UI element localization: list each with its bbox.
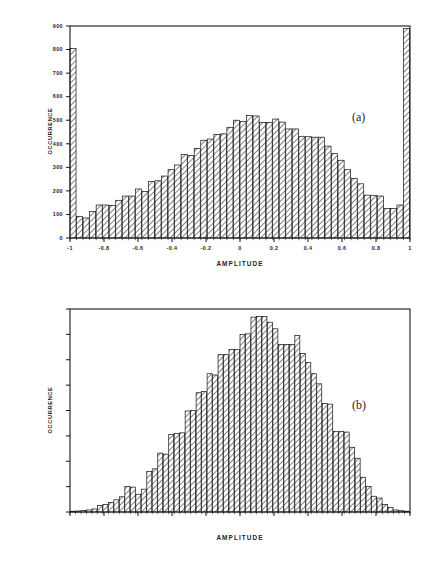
y-tick-label: 200 [30,188,63,194]
y-tick-label: 900 [30,23,63,29]
figure-panel-b: OCCURRENCE 0100200300400500600700800 -3-… [0,285,433,563]
y-tick-label: 0 [30,235,63,241]
y-tick-label: 400 [30,141,63,147]
y-tick-label: 300 [30,164,63,170]
y-tick-label: 700 [30,70,63,76]
figure-panel-a: OCCURRENCE 0100200300400500600700800900 … [0,0,433,285]
x-axis-title-b: AMPLITUDE [180,534,300,541]
y-axis-title-b: OCCURRENCE [47,368,53,452]
x-tick-label: -0.6 [123,245,153,251]
histogram-bars-a [70,28,410,238]
panel-label-b: (b) [352,398,366,413]
y-tick-label: 100 [30,211,63,217]
x-tick-label: 0.4 [293,245,323,251]
y-tick-label: 800 [30,46,63,52]
y-axis-title-a: OCCURRENCE [47,89,53,173]
chart-canvas-b [0,285,433,563]
y-tick-label: 600 [30,93,63,99]
x-tick-label: -0.2 [191,245,221,251]
histogram-bars-b [70,317,410,512]
chart-canvas-a [0,0,433,285]
x-axis-title-a: AMPLITUDE [180,260,300,267]
x-tick-label: 1 [395,245,425,251]
x-tick-label: 0 [225,245,255,251]
plot-area-b: OCCURRENCE 0100200300400500600700800 -3-… [0,285,433,563]
x-tick-label: 0.6 [327,245,357,251]
x-tick-label: -1 [55,245,85,251]
y-tick-label: 500 [30,117,63,123]
x-tick-label: -0.4 [157,245,187,251]
panel-label-a: (a) [352,110,365,125]
x-tick-label: 0.8 [361,245,391,251]
x-tick-label: 0.2 [259,245,289,251]
plot-area-a: OCCURRENCE 0100200300400500600700800900 … [0,0,433,285]
x-tick-label: -0.8 [89,245,119,251]
